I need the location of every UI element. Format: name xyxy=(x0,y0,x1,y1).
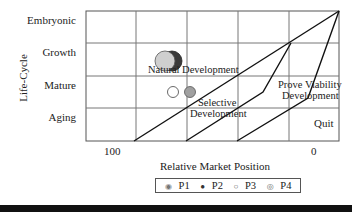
region-selective-line2: Development xyxy=(190,108,247,119)
legend: ◉ P1 ● P2 ○ P3 ◎ P4 xyxy=(155,178,301,193)
x-tick-100: 100 xyxy=(104,145,121,157)
region-prove-line1: Prove Viability xyxy=(278,79,342,90)
region-selective-line1: Selective xyxy=(198,97,236,108)
legend-p2: ● P2 xyxy=(198,180,225,191)
x-axis-label: Relative Market Position xyxy=(160,160,270,172)
region-prove-line2: Development xyxy=(282,90,339,101)
p1-marker-icon: ◉ xyxy=(165,182,172,191)
x-tick-0: 0 xyxy=(311,145,317,157)
bubble-p4 xyxy=(185,87,196,98)
legend-p3: ○ P3 xyxy=(232,180,259,191)
region-natural-development: Natural Development xyxy=(148,64,239,75)
region-quit: Quit xyxy=(314,117,334,129)
p2-marker-icon: ● xyxy=(200,182,205,191)
bubble-p3 xyxy=(168,87,179,98)
bottom-border xyxy=(0,205,352,212)
p3-marker-icon: ○ xyxy=(234,182,239,191)
legend-p1: ◉ P1 xyxy=(163,180,192,191)
legend-p4: ◎ P4 xyxy=(265,180,294,191)
p4-marker-icon: ◎ xyxy=(267,182,274,191)
grid xyxy=(86,11,339,141)
